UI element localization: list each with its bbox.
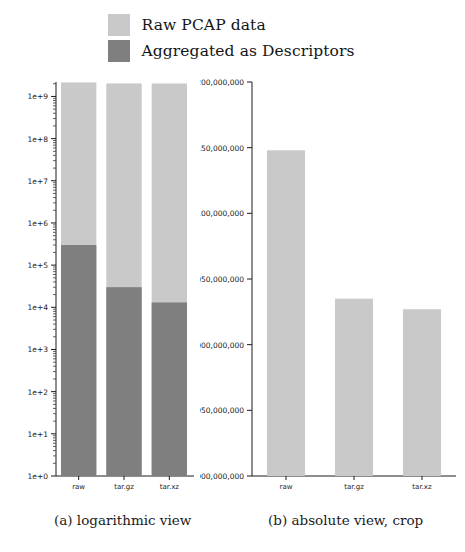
- axis-tick-label: 1e+3: [28, 345, 49, 354]
- axis-tick-label: 1e+2: [28, 388, 49, 397]
- legend-item-raw-pcap-data: Raw PCAP data: [108, 14, 358, 36]
- chart-absolute-view: 1,900,000,0001,950,000,0002,000,000,0002…: [200, 72, 465, 512]
- axis-tick-label: tar.gz: [344, 483, 364, 491]
- axis-tick-label: tar.gz: [114, 483, 134, 491]
- chart-logarithmic-view: 1e+01e+11e+21e+31e+41e+51e+61e+71e+81e+9…: [0, 72, 200, 512]
- bar-raw-pcap: [335, 299, 373, 476]
- bar-raw-pcap: [267, 150, 305, 476]
- axis-tick-label: raw: [280, 483, 293, 491]
- axis-tick-label: 1,900,000,000: [200, 472, 244, 481]
- caption-logarithmic-view: (a) logarithmic view: [54, 512, 191, 528]
- axis-tick-label: 2,050,000,000: [200, 275, 244, 284]
- caption-absolute-view: (b) absolute view, crop: [268, 512, 423, 528]
- legend-swatch-aggregated-as-descriptors: [108, 40, 130, 62]
- figure-container: Raw PCAP data Aggregated as Descriptors …: [0, 0, 465, 552]
- bar-aggregated: [61, 245, 96, 476]
- axis-tick-label: 1e+7: [28, 177, 49, 186]
- legend-swatch-raw-pcap-data: [108, 14, 130, 36]
- legend-item-aggregated-as-descriptors: Aggregated as Descriptors: [108, 40, 358, 62]
- axis-tick-label: 2,100,000,000: [200, 209, 244, 218]
- axis-tick-label: 1e+1: [28, 430, 49, 439]
- bar-raw-pcap: [403, 309, 441, 476]
- bar-aggregated: [152, 303, 187, 476]
- charts-row: 1e+01e+11e+21e+31e+41e+51e+61e+71e+81e+9…: [0, 72, 465, 512]
- axis-tick-label: 1e+5: [28, 261, 49, 270]
- axis-tick-label: tar.xz: [160, 483, 180, 491]
- axis-tick-label: 1e+8: [28, 135, 49, 144]
- axis-tick-label: 1e+4: [28, 303, 49, 312]
- axis-tick-label: 2,000,000,000: [200, 341, 244, 350]
- bar-aggregated: [106, 287, 141, 476]
- axis-tick-label: 1,950,000,000: [200, 406, 244, 415]
- logarithmic-view-plot: 1e+01e+11e+21e+31e+41e+51e+61e+71e+81e+9…: [0, 72, 200, 512]
- axis-tick-label: raw: [72, 483, 85, 491]
- axis-tick-label: tar.xz: [412, 483, 432, 491]
- figure-captions: (a) logarithmic view (b) absolute view, …: [0, 512, 465, 542]
- axis-tick-label: 1e+0: [28, 472, 49, 481]
- axis-tick-label: 2,150,000,000: [200, 144, 244, 153]
- legend-label-aggregated-as-descriptors: Aggregated as Descriptors: [142, 42, 355, 60]
- axis-tick-label: 1e+6: [28, 219, 49, 228]
- legend-label-raw-pcap-data: Raw PCAP data: [142, 16, 266, 34]
- axis-tick-label: 2,200,000,000: [200, 78, 244, 87]
- axis-tick-label: 1e+9: [28, 92, 49, 101]
- absolute-view-plot: 1,900,000,0001,950,000,0002,000,000,0002…: [200, 72, 465, 512]
- chart-legend: Raw PCAP data Aggregated as Descriptors: [0, 14, 465, 62]
